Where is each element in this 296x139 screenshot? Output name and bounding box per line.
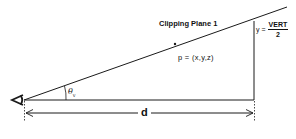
angle-subscript: v [73, 92, 76, 98]
height-fraction: VERT 2 [268, 21, 289, 38]
point-marker [174, 43, 176, 45]
point-label: p = (x,y,z) [178, 54, 214, 62]
eye-viewpoint-icon [12, 95, 23, 105]
clipping-plane-title: Clipping Plane 1 [159, 20, 217, 28]
height-label: y = VERT 2 [256, 21, 288, 38]
height-prefix: y = [256, 26, 266, 33]
height-denominator: 2 [276, 30, 280, 38]
distance-label: d [138, 107, 151, 118]
clipping-plane-diagram [0, 0, 296, 139]
clipping-plane-line [24, 7, 287, 100]
height-numerator: VERT [268, 21, 289, 30]
angle-arc [65, 86, 67, 100]
angle-label: θv [68, 88, 76, 98]
